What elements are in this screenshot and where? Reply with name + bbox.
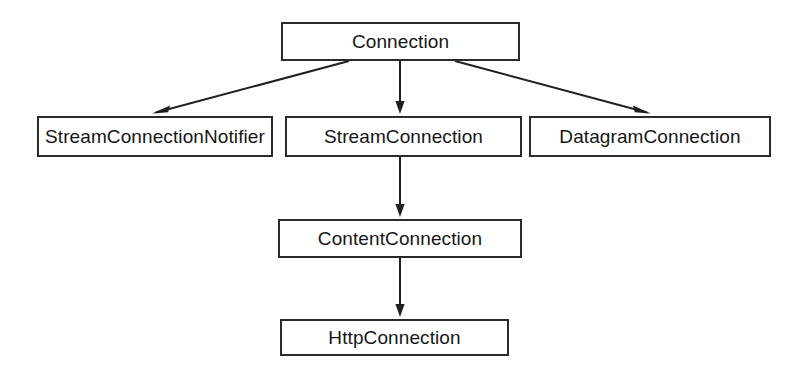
class-node-connection[interactable]: Connection — [281, 22, 520, 61]
class-node-label: DatagramConnection — [559, 127, 740, 146]
class-node-streamconnectionnotifier[interactable]: StreamConnectionNotifier — [37, 116, 273, 157]
edge-connection-to-datagramconnection — [455, 61, 651, 114]
class-node-streamconnection[interactable]: StreamConnection — [285, 116, 522, 157]
edge-streamconnection-to-contentconnection — [395, 157, 404, 217]
class-node-label: ContentConnection — [318, 229, 482, 248]
class-node-contentconnection[interactable]: ContentConnection — [278, 219, 522, 258]
class-node-httpconnection[interactable]: HttpConnection — [280, 319, 509, 356]
edge-connection-to-streamconnection — [395, 61, 404, 114]
class-node-label: Connection — [352, 32, 449, 51]
class-node-label: StreamConnectionNotifier — [45, 127, 265, 146]
edge-connection-to-streamconnectionnotifier — [152, 61, 349, 114]
class-node-label: HttpConnection — [328, 328, 460, 347]
class-hierarchy-diagram: Connection StreamConnectionNotifier Stre… — [0, 0, 806, 386]
class-node-label: StreamConnection — [324, 127, 483, 146]
class-node-datagramconnection[interactable]: DatagramConnection — [529, 116, 771, 157]
edge-contentconnection-to-httpconnection — [395, 258, 404, 317]
